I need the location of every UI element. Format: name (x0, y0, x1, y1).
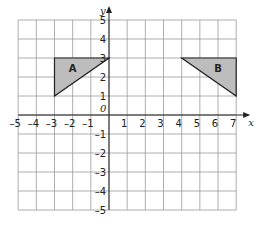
y-tick-label: 5 (100, 15, 106, 26)
axes (18, 6, 250, 210)
x-tick-label: 5 (194, 118, 200, 129)
origin-label: 0 (100, 103, 107, 114)
x-tick-label: –1 (82, 118, 93, 129)
x-tick-label: 3 (157, 118, 163, 129)
y-tick-label: 3 (100, 53, 106, 64)
y-tick-label: –3 (95, 167, 106, 178)
x-tick-label: 4 (175, 118, 181, 129)
shape-label-b: B (214, 63, 222, 74)
x-tick-label: –4 (28, 118, 39, 129)
coordinate-plane: AB xy0–5–4–3–2–1123456754321–1–2–3–4–5 (0, 0, 256, 226)
coordinate-grid-diagram: AB xy0–5–4–3–2–1123456754321–1–2–3–4–5 (0, 0, 256, 226)
x-axis-label: x (248, 117, 254, 128)
y-tick-label: 4 (100, 34, 106, 45)
x-tick-label: 1 (121, 118, 127, 129)
y-tick-label: –4 (95, 186, 106, 197)
y-tick-label: –1 (95, 129, 106, 140)
x-tick-label: –3 (46, 118, 57, 129)
x-tick-label: 2 (139, 118, 145, 129)
tick-labels: xy0–5–4–3–2–1123456754321–1–2–3–4–5 (9, 5, 254, 216)
x-tick-label: 6 (212, 118, 218, 129)
shape-label-a: A (69, 63, 77, 74)
x-tick-label: –5 (9, 118, 20, 129)
y-axis-arrow-icon (106, 6, 112, 13)
x-tick-label: –2 (64, 118, 75, 129)
y-tick-label: 1 (100, 91, 106, 102)
y-tick-label: 2 (100, 72, 106, 83)
x-tick-label: 7 (230, 118, 236, 129)
y-tick-label: –5 (95, 205, 106, 216)
y-tick-label: –2 (95, 148, 106, 159)
